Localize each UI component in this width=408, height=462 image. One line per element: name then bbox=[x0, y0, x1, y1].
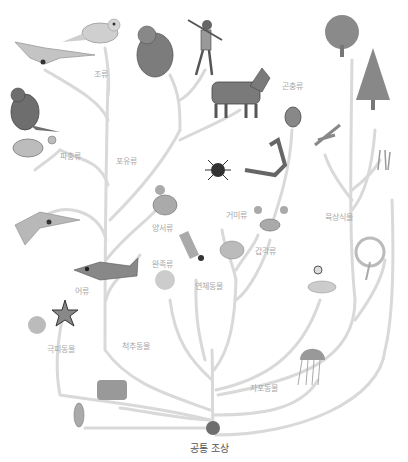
bird-icon bbox=[62, 19, 120, 43]
scorpion-icon bbox=[245, 140, 285, 175]
label-mollusks: 연체동물 bbox=[195, 280, 223, 291]
deciduous-tree-icon bbox=[325, 15, 359, 57]
label-arachnids: 거미류 bbox=[226, 209, 247, 220]
label-echinoderms: 극피동물 bbox=[47, 343, 75, 354]
crab-icon bbox=[254, 206, 288, 231]
dinosaur-icon bbox=[11, 88, 60, 132]
label-amphibians: 양서류 bbox=[152, 222, 173, 233]
sea-urchin-icon bbox=[28, 316, 46, 334]
trilobite-icon bbox=[220, 241, 244, 259]
label-insects: 곤충류 bbox=[282, 80, 303, 91]
common-ancestor-node bbox=[206, 421, 220, 435]
label-mammals: 포유류 bbox=[116, 155, 137, 166]
conifer-tree-icon bbox=[356, 48, 390, 110]
label-cnidarians: 자포동물 bbox=[250, 382, 278, 393]
beetle-icon bbox=[285, 107, 301, 127]
label-birds: 조류 bbox=[94, 68, 108, 79]
label-fish: 어류 bbox=[75, 285, 89, 296]
label-common-ancestor: 공통 조상 bbox=[190, 440, 229, 455]
human-icon bbox=[188, 20, 222, 75]
spider-icon bbox=[205, 160, 231, 180]
branches bbox=[35, 48, 393, 435]
gorilla-icon bbox=[137, 26, 173, 77]
shell-icon bbox=[155, 270, 175, 290]
bacterium-icon bbox=[74, 403, 84, 427]
sponge-icon bbox=[97, 380, 127, 400]
pterosaur-icon bbox=[15, 42, 95, 65]
fern-icon bbox=[315, 125, 340, 145]
coral-tree-icon bbox=[356, 238, 384, 280]
starfish-icon bbox=[52, 300, 78, 326]
label-chordates: 척추동물 bbox=[122, 340, 150, 351]
turtle-icon bbox=[13, 136, 56, 157]
label-reptiles: 파충류 bbox=[60, 150, 81, 161]
snake-icon bbox=[308, 266, 336, 293]
label-crustaceans: 갑각류 bbox=[255, 245, 276, 256]
tree-diagram bbox=[0, 0, 408, 462]
swordfish-icon bbox=[15, 212, 80, 245]
frog-icon bbox=[153, 185, 177, 215]
squid-icon bbox=[179, 231, 204, 261]
label-land-plants: 육상식물 bbox=[325, 211, 353, 222]
label-bivalves: 완족류 bbox=[152, 258, 173, 269]
